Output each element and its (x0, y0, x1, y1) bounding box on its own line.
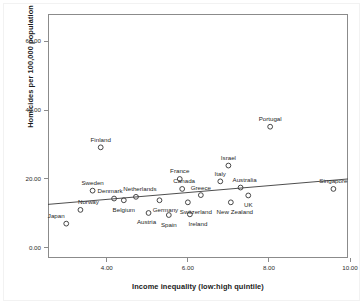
data-point-portugal[interactable] (268, 124, 273, 129)
x-tick-label: 10.00 (335, 264, 363, 271)
point-label-spain: Spain (161, 221, 177, 228)
point-label-uk: UK (244, 201, 253, 208)
point-label-finland: Finland (91, 136, 111, 143)
point-label-greece: Greece (191, 184, 211, 191)
x-tick-label: 4.00 (92, 264, 122, 271)
y-axis-title: Homicides per 100,000 population (26, 0, 35, 167)
y-tickmark (44, 178, 48, 179)
point-label-germany: Germany (153, 206, 178, 213)
x-tickmark (268, 258, 269, 262)
y-tickmark (44, 247, 48, 248)
data-point-greece[interactable] (198, 193, 203, 198)
data-point-austria[interactable] (146, 211, 151, 216)
x-tickmark (106, 258, 107, 262)
point-label-japan: Japan (48, 212, 65, 219)
data-point-singapore[interactable] (331, 187, 336, 192)
y-tick-label: 40.00 (15, 106, 41, 113)
y-tick-label: 20.00 (15, 175, 41, 182)
x-tickmark (350, 258, 351, 262)
point-label-switzerland: Switzerland (180, 208, 212, 215)
x-tick-label: 8.00 (254, 264, 284, 271)
data-point-spain[interactable] (166, 213, 171, 218)
x-tickmark (187, 258, 188, 262)
point-label-denmark: Denmark (98, 187, 123, 194)
point-label-singapore: Singapore (319, 177, 347, 184)
data-point-belgium[interactable] (121, 198, 126, 203)
point-label-australia: Australia (233, 176, 257, 183)
data-point-finland[interactable] (98, 145, 103, 150)
point-label-france: France (170, 167, 189, 174)
point-label-austria: Austria (137, 218, 156, 225)
point-label-new-zealand: New Zealand (217, 208, 253, 215)
y-tickmark (44, 41, 48, 42)
data-point-italy[interactable] (218, 179, 223, 184)
point-label-israel: Israel (221, 154, 236, 161)
data-point-canada[interactable] (180, 187, 185, 192)
data-point-norway[interactable] (78, 207, 83, 212)
x-tick-label: 6.00 (173, 264, 203, 271)
data-point-new-zealand[interactable] (228, 200, 233, 205)
data-point-switzerland[interactable] (185, 200, 190, 205)
point-label-norway: Norway (78, 198, 99, 205)
x-axis-title: Income inequality (low:high quintile) (48, 282, 348, 291)
scatter-chart-figure: Homicides per 100,000 population JapanNo… (0, 0, 363, 304)
y-tick-label: 60.00 (15, 37, 41, 44)
data-point-israel[interactable] (226, 163, 231, 168)
data-point-uk[interactable] (246, 193, 251, 198)
data-point-germany[interactable] (157, 198, 162, 203)
point-label-sweden: Sweden (81, 179, 103, 186)
point-label-ireland: Ireland (188, 220, 207, 227)
point-label-belgium: Belgium (113, 206, 135, 213)
data-point-sweden[interactable] (90, 188, 95, 193)
y-tickmark (44, 110, 48, 111)
point-label-portugal: Portugal (259, 115, 282, 122)
y-tick-label: 0.00 (15, 244, 41, 251)
data-point-japan[interactable] (64, 221, 69, 226)
point-label-netherlands: Netherlands (123, 185, 156, 192)
point-label-italy: Italy (215, 170, 226, 177)
